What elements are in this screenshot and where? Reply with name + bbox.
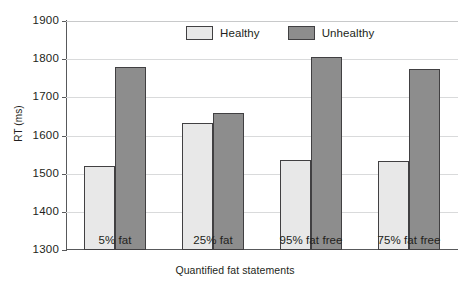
x-tick-label: 25% fat [164, 234, 262, 246]
y-tick-label: 1400 [33, 204, 59, 219]
y-tick-label: 1300 [33, 242, 59, 257]
legend-label-unhealthy: Unhealthy [322, 27, 375, 39]
x-tick-label: 75% fat free [360, 234, 458, 246]
y-tick-mark [62, 250, 66, 251]
legend: Healthy Unhealthy [186, 26, 374, 40]
y-tick-mark [62, 59, 66, 60]
legend-entry-healthy: Healthy [186, 26, 260, 40]
y-tick-label: 1600 [33, 128, 59, 143]
y-axis-title: RT (ms) [13, 79, 24, 169]
bar-healthy-1 [182, 123, 213, 250]
gridline [66, 59, 458, 60]
y-tick-mark [62, 136, 66, 137]
y-tick-label: 1900 [33, 13, 59, 28]
x-tick-label: 5% fat [66, 234, 164, 246]
legend-swatch-unhealthy [288, 26, 315, 40]
legend-swatch-healthy [186, 26, 213, 40]
x-axis-title: Quantified fat statements [0, 264, 470, 276]
y-tick-mark [62, 174, 66, 175]
bar-unhealthy-0 [115, 67, 146, 250]
gridline [66, 21, 458, 22]
bar-chart-figure: RT (ms) 1300140015001600170018001900 5% … [0, 0, 470, 294]
y-tick-mark [62, 212, 66, 213]
bar-unhealthy-1 [213, 113, 244, 250]
y-tick-label: 1700 [33, 89, 59, 104]
legend-label-healthy: Healthy [220, 27, 260, 39]
x-tick-label: 95% fat free [262, 234, 360, 246]
y-tick-label: 1800 [33, 51, 59, 66]
legend-entry-unhealthy: Unhealthy [288, 26, 375, 40]
bar-unhealthy-3 [409, 69, 440, 250]
y-tick-mark [62, 97, 66, 98]
plot-area: 1300140015001600170018001900 [66, 21, 458, 250]
y-tick-mark [62, 21, 66, 22]
bar-unhealthy-2 [311, 57, 342, 250]
y-tick-label: 1500 [33, 166, 59, 181]
